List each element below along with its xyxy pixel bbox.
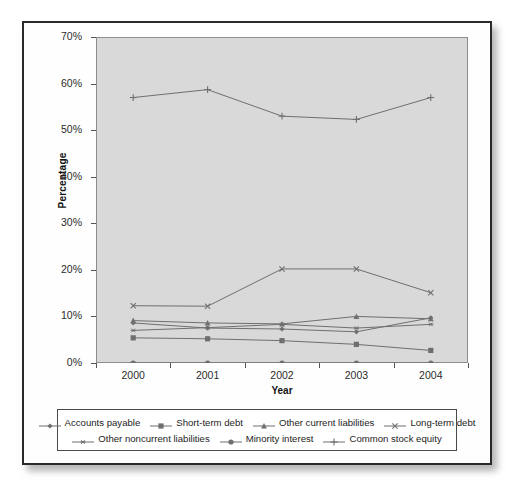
legend-item-minority-interest[interactable]: Minority interest <box>220 433 314 444</box>
series-short-term-debt <box>131 335 434 353</box>
y-tick-label: 0% <box>38 356 82 368</box>
legend-label: Short-term debt <box>176 417 243 428</box>
x-tick-mark <box>170 363 171 368</box>
legend-marker <box>384 417 406 427</box>
legend-item-accounts-payable[interactable]: Accounts payable <box>39 417 141 428</box>
data-point-plus-marker <box>331 439 338 446</box>
data-point-plus-marker <box>427 94 434 101</box>
legend-item-short-term-debt[interactable]: Short-term debt <box>150 417 243 428</box>
y-tick-label: 50% <box>38 123 82 135</box>
x-axis-title: Year <box>96 385 468 396</box>
data-point-plus-marker <box>279 113 286 120</box>
legend-marker <box>323 433 345 443</box>
data-point-diamond-marker <box>47 423 52 428</box>
x-tick-label: 2003 <box>326 369 386 381</box>
legend-label: Accounts payable <box>65 417 141 428</box>
data-point-cross-x-marker <box>428 290 433 295</box>
legend-marker <box>72 433 94 443</box>
legend-item-common-stock-equity[interactable]: Common stock equity <box>323 433 441 444</box>
x-tick-mark <box>394 363 395 368</box>
x-tick-mark <box>245 363 246 368</box>
legend-label: Other current liabilities <box>279 417 374 428</box>
asterisk-marker-icon <box>72 437 94 447</box>
x-tick-label: 2002 <box>252 369 312 381</box>
y-tick-label: 10% <box>38 309 82 321</box>
y-tick-label: 60% <box>38 77 82 89</box>
x-tick-label: 2004 <box>401 369 461 381</box>
circle-marker-icon <box>220 437 242 447</box>
x-tick-mark <box>96 363 97 368</box>
legend-label: Minority interest <box>246 433 314 444</box>
plus-marker-icon <box>323 437 345 447</box>
data-point-square-marker <box>205 336 210 341</box>
legend-marker <box>150 417 172 427</box>
data-point-diamond-marker <box>354 329 359 334</box>
data-point-square-marker <box>131 335 136 340</box>
diamond-marker-icon <box>39 421 61 431</box>
chart-area: Percentage 0%10%20%30%40%50%60%70% 20002… <box>24 23 490 398</box>
square-marker-icon <box>150 421 172 431</box>
data-point-asterisk-marker <box>81 440 86 444</box>
data-point-square-marker <box>159 423 164 428</box>
legend-item-other-noncurrent-liabilities[interactable]: Other noncurrent liabilities <box>72 433 209 444</box>
data-point-circle-marker <box>228 439 233 444</box>
legend-row: Other noncurrent liabilitiesMinority int… <box>58 430 456 446</box>
y-tick-label: 20% <box>38 263 82 275</box>
legend-row: Accounts payableShort-term debtOther cur… <box>58 414 456 430</box>
data-point-circle-marker <box>205 360 210 363</box>
legend-marker <box>220 433 242 443</box>
triangle-marker-icon <box>253 421 275 431</box>
data-point-square-marker <box>428 348 433 353</box>
legend-marker <box>39 417 61 427</box>
data-point-asterisk-marker <box>428 323 433 327</box>
legend-item-long-term-debt[interactable]: Long-term debt <box>384 417 475 428</box>
data-point-plus-marker <box>130 94 137 101</box>
x-tick-label: 2000 <box>103 369 163 381</box>
chart-legend: Accounts payableShort-term debtOther cur… <box>57 409 457 451</box>
x-tick-mark <box>319 363 320 368</box>
y-tick-label: 30% <box>38 216 82 228</box>
series-long-term-debt <box>131 266 434 308</box>
data-point-circle-marker <box>131 360 136 363</box>
y-tick-label: 40% <box>38 170 82 182</box>
data-point-asterisk-marker <box>131 329 136 333</box>
y-tick-label: 70% <box>38 30 82 42</box>
series-common-stock-equity <box>130 86 434 123</box>
legend-label: Long-term debt <box>410 417 475 428</box>
cross-x-marker-icon <box>384 421 406 431</box>
data-point-circle-marker <box>354 360 359 363</box>
data-point-circle-marker <box>428 360 433 363</box>
data-point-plus-marker <box>204 86 211 93</box>
data-point-square-marker <box>354 342 359 347</box>
legend-item-other-current-liabilities[interactable]: Other current liabilities <box>253 417 374 428</box>
data-point-square-marker <box>279 338 284 343</box>
chart-card: Percentage 0%10%20%30%40%50%60%70% 20002… <box>22 21 492 465</box>
data-point-diamond-marker <box>279 326 284 331</box>
legend-label: Common stock equity <box>349 433 441 444</box>
data-point-circle-marker <box>279 360 284 363</box>
data-point-plus-marker <box>353 116 360 123</box>
legend-marker <box>253 417 275 427</box>
x-tick-mark <box>468 363 469 368</box>
series-minority-interest <box>131 360 434 363</box>
plot-series-svg <box>96 37 468 363</box>
legend-label: Other noncurrent liabilities <box>98 433 209 444</box>
x-tick-label: 2001 <box>178 369 238 381</box>
